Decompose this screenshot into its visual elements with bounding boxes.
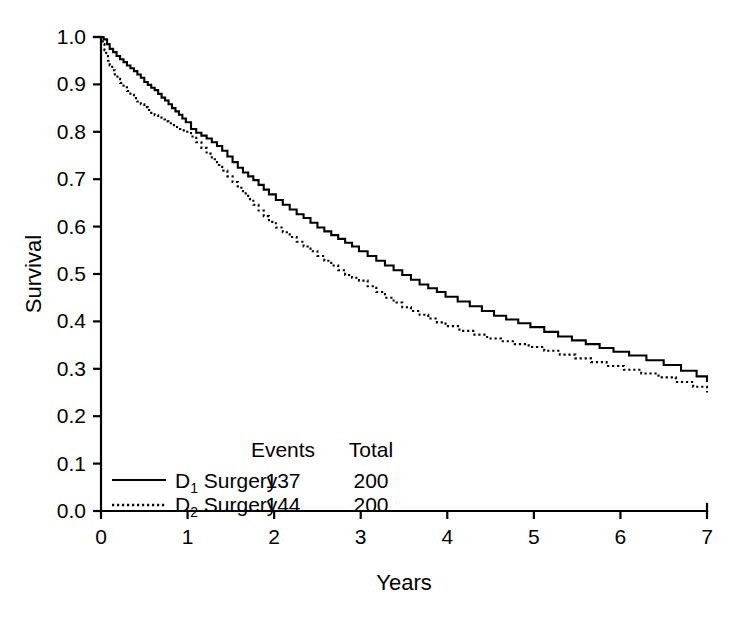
- axes-group: [94, 37, 707, 511]
- y-axis-tick-label: 0.9: [57, 72, 86, 95]
- y-axis-tick-label: 0.5: [57, 262, 86, 285]
- chart-legend: Events Total D1 Surgery 137 200 D2 Surge…: [112, 438, 393, 520]
- x-axis-tick-label: 5: [528, 525, 540, 548]
- y-axis-tick-label: 0.1: [57, 452, 86, 475]
- legend-events-d2-surgery: 144: [265, 493, 300, 516]
- legend-total-d2-surgery: 200: [353, 493, 388, 516]
- legend-header-events: Events: [251, 438, 315, 461]
- survival-curve-d1-surgery: [101, 37, 707, 382]
- x-axis-tick-label: 1: [182, 525, 194, 548]
- x-axis-tick-label: 0: [95, 525, 107, 548]
- x-tick-group: 01234567: [95, 511, 713, 548]
- y-axis-tick-label: 0.2: [57, 404, 86, 427]
- y-axis-tick-label: 0.7: [57, 167, 86, 190]
- y-axis-tick-label: 0.6: [57, 215, 86, 238]
- x-axis-title: Years: [376, 570, 431, 595]
- x-axis-tick-label: 2: [268, 525, 280, 548]
- y-axis-tick-label: 0.3: [57, 357, 86, 380]
- y-axis-tick-label: 0.4: [57, 309, 87, 332]
- survival-chart-figure: 0.00.10.20.30.40.50.60.70.80.91.0 012345…: [0, 0, 739, 622]
- y-axis-tick-label: 0.8: [57, 120, 86, 143]
- legend-total-d1-surgery: 200: [353, 469, 388, 492]
- x-axis-tick-label: 6: [615, 525, 627, 548]
- y-tick-group: 0.00.10.20.30.40.50.60.70.80.91.0: [57, 25, 101, 522]
- y-axis-tick-label: 0.0: [57, 499, 86, 522]
- x-axis-tick-label: 3: [355, 525, 367, 548]
- kaplan-meier-plot: 0.00.10.20.30.40.50.60.70.80.91.0 012345…: [0, 0, 739, 622]
- legend-label-d1-surgery: D1 Surgery: [175, 469, 278, 496]
- curve-group: [101, 37, 707, 393]
- survival-curve-d2-surgery: [101, 37, 707, 393]
- legend-events-d1-surgery: 137: [265, 469, 300, 492]
- y-axis-tick-label: 1.0: [57, 25, 86, 48]
- legend-label-d2-surgery: D2 Surgery: [175, 493, 278, 520]
- x-axis-tick-label: 7: [701, 525, 713, 548]
- y-axis-title: Survival: [21, 235, 46, 313]
- legend-header-total: Total: [349, 438, 393, 461]
- x-axis-tick-label: 4: [441, 525, 453, 548]
